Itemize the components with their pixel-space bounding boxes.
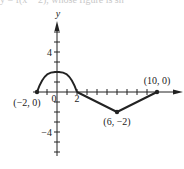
x-axis-arrow-icon [173,90,183,95]
point-label: (10, 0) [144,75,171,87]
y-tick-label: −4 [41,127,52,138]
chart: xy024−4(−2, 0)(10, 0)(6, −2) [0,0,184,169]
y-tick-label: 4 [47,47,52,58]
point-label: (6, −2) [103,116,130,128]
x-tick-label: 2 [75,93,80,104]
point-label: (−2, 0) [13,97,40,109]
data-point [155,90,159,94]
y-axis-label: y [55,8,61,19]
x-tick-label: 0 [52,93,57,104]
y-axis-arrow-icon [55,21,60,31]
data-point [35,90,39,94]
data-point [115,110,119,114]
